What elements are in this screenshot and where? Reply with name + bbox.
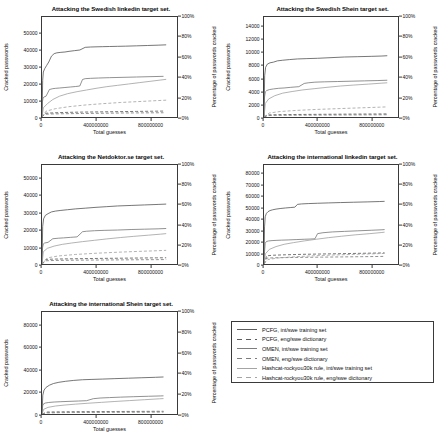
series-line — [42, 113, 164, 117]
plot-frame — [263, 16, 399, 118]
series-line — [264, 232, 385, 264]
series-line — [42, 45, 166, 117]
x-tick-mark — [41, 118, 42, 121]
y-tick-mark-left — [261, 25, 264, 26]
x-tick-mark — [41, 265, 42, 268]
chart-title: Attacking the Swedish linkedin target se… — [0, 5, 222, 12]
legend-line-swatch — [236, 373, 258, 382]
chart-title: Attacking the Netdoktor.se target set. — [0, 153, 222, 160]
y-tick-label-left: 8000 — [248, 62, 259, 68]
y-tick-mark-right — [178, 164, 181, 165]
y-tick-label-right: 80% — [403, 181, 413, 187]
y-tick-label-left: 70000 — [246, 182, 260, 188]
y-tick-label-left: 40000 — [246, 216, 260, 222]
x-tick-mark — [41, 415, 42, 418]
y-tick-label-right: 60% — [182, 54, 192, 60]
y-tick-mark-left — [261, 196, 264, 197]
chart-title: Attacking the international Shein target… — [0, 300, 222, 307]
series-line — [42, 76, 164, 117]
y-tick-label-left: 30000 — [246, 228, 260, 234]
y-tick-label-right: 80% — [182, 33, 192, 39]
legend-item: Hashcat-rockyou30k rule, eng/swe diciton… — [236, 373, 429, 383]
y-tick-mark-left — [39, 369, 42, 370]
y-tick-mark-left — [39, 324, 42, 325]
y-tick-label-right: 40% — [403, 222, 413, 228]
legend-line-swatch — [236, 344, 258, 353]
y-tick-mark-right — [399, 224, 402, 225]
plot-frame — [41, 164, 178, 265]
y-tick-label-left: 2000 — [248, 102, 259, 108]
y-tick-label-left: 0 — [35, 115, 38, 121]
y-tick-mark-left — [261, 253, 264, 254]
plot-area-wrapper: Cracked passwords Percentage of password… — [41, 16, 178, 118]
legend-label: OMEN, eng/swe dictionary — [262, 356, 328, 362]
x-tick-mark — [317, 118, 318, 121]
x-tick-mark — [371, 118, 372, 121]
series-line — [42, 411, 164, 414]
y-axis-label-left: Cracked passwords — [3, 339, 9, 386]
x-tick-mark — [371, 265, 372, 268]
y-tick-label-right: 60% — [182, 201, 192, 207]
y-tick-label-left: 0 — [257, 262, 260, 268]
y-axis-label-left: Cracked passwords — [3, 43, 9, 90]
y-tick-mark-left — [261, 207, 264, 208]
x-axis-label: Total guesses — [41, 426, 178, 432]
y-tick-label-left: 30000 — [24, 64, 38, 70]
series-line — [264, 253, 385, 264]
y-tick-label-right: 20% — [182, 391, 192, 397]
series-line — [42, 258, 166, 264]
y-tick-label-left: 10000 — [24, 245, 38, 251]
y-tick-mark-left — [39, 33, 42, 34]
x-tick-label: 800000000 — [138, 122, 163, 128]
y-tick-label-left: 20000 — [24, 81, 38, 87]
series-line — [264, 80, 387, 117]
x-tick-label: 0 — [40, 269, 43, 275]
y-tick-mark-right — [399, 77, 402, 78]
y-tick-label-left: 0 — [257, 115, 260, 121]
y-tick-mark-left — [261, 39, 264, 40]
legend-item: OMEN, int/swe training set — [236, 344, 429, 354]
y-tick-label-left: 50000 — [246, 205, 260, 211]
y-tick-mark-left — [261, 230, 264, 231]
series-line — [42, 100, 166, 117]
y-tick-label-right: 0% — [182, 262, 189, 268]
y-tick-label-right: 100% — [182, 161, 195, 167]
y-tick-mark-right — [399, 36, 402, 37]
x-tick-label: 400000000 — [305, 269, 330, 275]
chart-cell-3: Attacking the international linkedin tar… — [222, 148, 443, 295]
y-tick-mark-left — [39, 195, 42, 196]
y-tick-label-left: 10000 — [246, 49, 260, 55]
chart-legend: PCFG, int/swe training setPCFG, eng/swe … — [231, 321, 434, 383]
x-tick-mark — [263, 118, 264, 121]
x-tick-mark — [150, 265, 151, 268]
y-tick-label-right: 100% — [403, 161, 416, 167]
y-tick-label-left: 0 — [35, 262, 38, 268]
x-tick-mark — [150, 415, 151, 418]
y-tick-label-left: 40000 — [24, 47, 38, 53]
y-tick-mark-left — [39, 101, 42, 102]
plot-frame — [263, 164, 399, 265]
series-line — [42, 250, 166, 264]
x-tick-label: 0 — [262, 269, 265, 275]
y-tick-label-right: 40% — [182, 74, 192, 80]
chart-panel-swedish-linkedin: Attacking the Swedish linkedin target se… — [0, 0, 222, 148]
legend-item: OMEN, eng/swe dictionary — [236, 354, 429, 364]
y-tick-label-right: 80% — [403, 33, 413, 39]
y-tick-mark-right — [178, 118, 181, 119]
y-tick-mark-right — [399, 16, 402, 17]
x-axis-label: Total guesses — [41, 276, 178, 282]
chart-cell-2: Attacking the Netdoktor.se target set. C… — [0, 148, 222, 295]
y-tick-label-left: 60000 — [24, 344, 38, 350]
y-axis-label-left: Cracked passwords — [225, 191, 231, 238]
y-tick-mark-right — [178, 352, 181, 353]
y-axis-label-right: Percentage of passwords cracked — [211, 26, 217, 107]
y-tick-mark-right — [178, 373, 181, 374]
x-tick-mark — [263, 265, 264, 268]
y-tick-label-left: 4000 — [248, 89, 259, 95]
x-tick-label: 400000000 — [305, 122, 330, 128]
y-tick-mark-left — [39, 50, 42, 51]
legend-line-swatch — [236, 335, 258, 344]
legend-line-swatch — [236, 325, 258, 334]
y-tick-mark-left — [39, 84, 42, 85]
y-tick-label-right: 20% — [403, 95, 413, 101]
